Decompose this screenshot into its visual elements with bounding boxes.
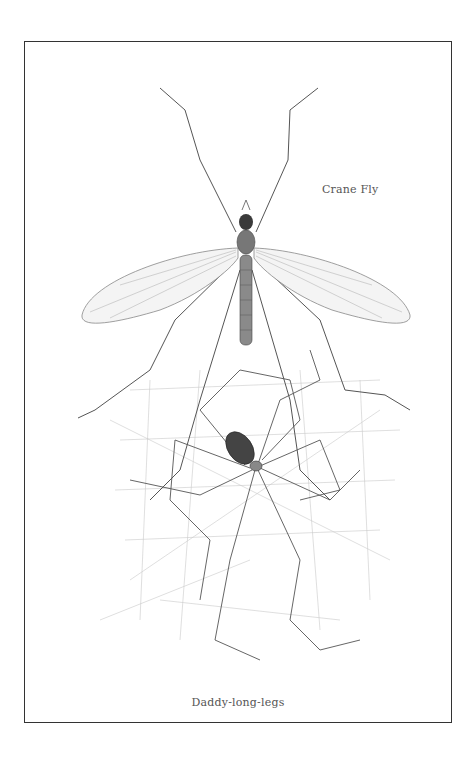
- insect-illustration: [0, 0, 476, 762]
- crane-fly-body: [237, 200, 255, 345]
- daddy-long-legs-legs: [130, 350, 360, 660]
- daddy-long-legs-caption: Daddy-long-legs: [0, 696, 476, 709]
- crane-fly-caption: Crane Fly: [322, 183, 379, 196]
- spider-web: [100, 370, 400, 640]
